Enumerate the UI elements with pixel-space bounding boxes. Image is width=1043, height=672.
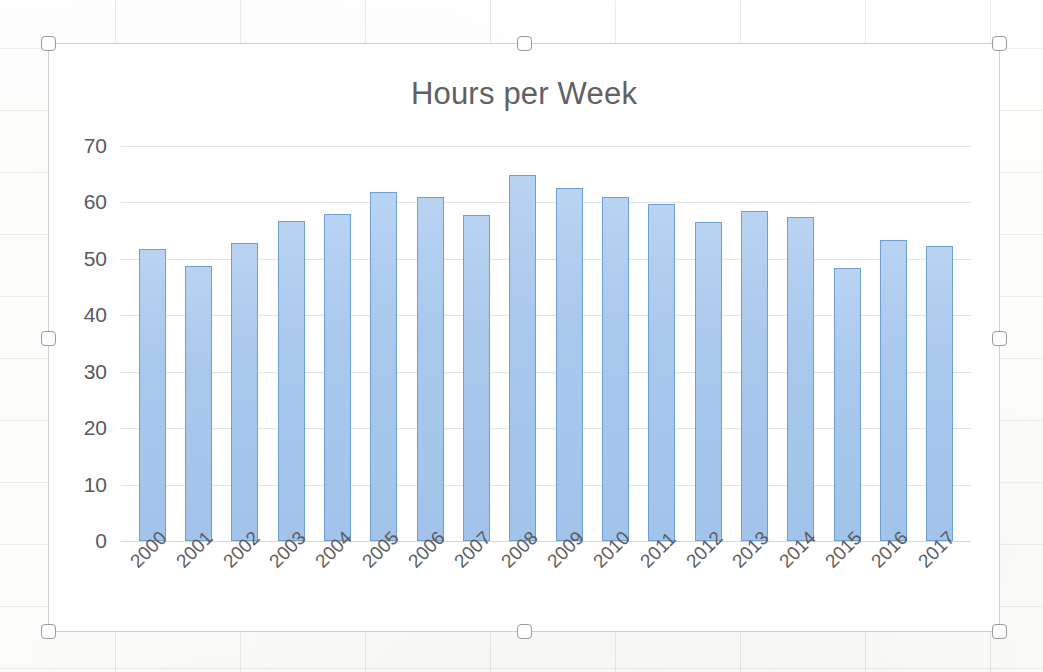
bar-slot: 2017 bbox=[917, 146, 963, 541]
screenshot-root: Hours per Week 010203040506070 200020012… bbox=[0, 0, 1043, 672]
bar-slot: 2016 bbox=[870, 146, 916, 541]
selection-handle-middle-right[interactable] bbox=[992, 331, 1007, 346]
bar-slot: 2012 bbox=[685, 146, 731, 541]
bar[interactable] bbox=[324, 214, 351, 541]
bar[interactable] bbox=[695, 222, 722, 541]
bar[interactable] bbox=[509, 175, 536, 541]
selection-handle-top-center[interactable] bbox=[517, 36, 532, 51]
bar-slot: 2004 bbox=[314, 146, 360, 541]
y-axis-tick-label: 60 bbox=[84, 190, 107, 214]
bar[interactable] bbox=[926, 246, 953, 541]
chart-plot-area: Hours per Week 010203040506070 200020012… bbox=[49, 44, 999, 631]
bar[interactable] bbox=[370, 192, 397, 541]
selection-handle-middle-left[interactable] bbox=[41, 331, 56, 346]
y-axis-tick-label: 70 bbox=[84, 134, 107, 158]
bar-slot: 2003 bbox=[268, 146, 314, 541]
y-axis-tick-label: 20 bbox=[84, 416, 107, 440]
plot-canvas: 010203040506070 200020012002200320042005… bbox=[121, 146, 971, 541]
bar-slot: 2009 bbox=[546, 146, 592, 541]
selection-handle-bottom-left[interactable] bbox=[41, 624, 56, 639]
bar-slot: 2007 bbox=[453, 146, 499, 541]
bar[interactable] bbox=[139, 249, 166, 541]
chart-title[interactable]: Hours per Week bbox=[49, 76, 999, 112]
y-axis-tick-label: 0 bbox=[95, 529, 107, 553]
bar-slot: 2002 bbox=[222, 146, 268, 541]
bar[interactable] bbox=[417, 197, 444, 541]
bar[interactable] bbox=[463, 215, 490, 541]
selection-handle-top-left[interactable] bbox=[41, 36, 56, 51]
bar[interactable] bbox=[741, 211, 768, 541]
selection-handle-top-right[interactable] bbox=[992, 36, 1007, 51]
y-axis-tick-label: 50 bbox=[84, 247, 107, 271]
bar[interactable] bbox=[278, 221, 305, 542]
bar-slot: 2014 bbox=[778, 146, 824, 541]
y-axis-tick-label: 30 bbox=[84, 360, 107, 384]
bar-slot: 2008 bbox=[500, 146, 546, 541]
bar-slot: 2001 bbox=[175, 146, 221, 541]
bar[interactable] bbox=[556, 188, 583, 541]
bar[interactable] bbox=[231, 243, 258, 541]
bar[interactable] bbox=[787, 217, 814, 541]
bar[interactable] bbox=[834, 268, 861, 541]
bar-slot: 2010 bbox=[592, 146, 638, 541]
bar[interactable] bbox=[880, 240, 907, 541]
bar-slot: 2005 bbox=[361, 146, 407, 541]
y-axis-tick-label: 40 bbox=[84, 303, 107, 327]
bar[interactable] bbox=[602, 197, 629, 541]
selection-handle-bottom-center[interactable] bbox=[517, 624, 532, 639]
selection-handle-bottom-right[interactable] bbox=[992, 624, 1007, 639]
bar[interactable] bbox=[648, 204, 675, 541]
bar-slot: 2000 bbox=[129, 146, 175, 541]
bar-series[interactable]: 2000200120022003200420052006200720082009… bbox=[121, 146, 971, 541]
bar[interactable] bbox=[185, 266, 212, 541]
bar-slot: 2015 bbox=[824, 146, 870, 541]
chart-object[interactable]: Hours per Week 010203040506070 200020012… bbox=[48, 43, 1000, 632]
bar-slot: 2013 bbox=[731, 146, 777, 541]
y-axis-tick-label: 10 bbox=[84, 473, 107, 497]
bar-slot: 2011 bbox=[639, 146, 685, 541]
bar-slot: 2006 bbox=[407, 146, 453, 541]
